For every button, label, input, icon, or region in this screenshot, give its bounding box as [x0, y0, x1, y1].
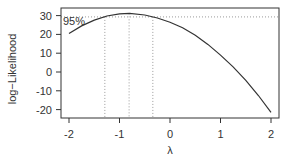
x-tick-label: -2	[64, 128, 74, 140]
x-tick-label: 2	[268, 128, 274, 140]
x-tick-label: -1	[115, 128, 125, 140]
y-axis-label: log−Likelihood	[6, 34, 18, 105]
x-axis: -2-1012	[64, 118, 274, 140]
x-axis-label: λ	[167, 144, 173, 156]
y-tick-label: -20	[36, 104, 52, 116]
y-axis: -20-100102030	[36, 10, 61, 116]
y-tick-label: 0	[46, 66, 52, 78]
x-tick-label: 1	[217, 128, 223, 140]
likelihood-curve	[69, 13, 271, 112]
y-tick-label: 10	[40, 47, 52, 59]
y-tick-label: 30	[40, 10, 52, 22]
y-tick-label: 20	[40, 28, 52, 40]
x-tick-label: 0	[167, 128, 173, 140]
confidence-vertical-lines	[105, 13, 153, 118]
y-tick-label: -10	[36, 85, 52, 97]
box-cox-likelihood-chart: -2-1012 -20-100102030 95% λ log−Likeliho…	[0, 0, 293, 162]
confidence-label: 95%	[63, 15, 85, 27]
plot-frame	[61, 8, 279, 118]
